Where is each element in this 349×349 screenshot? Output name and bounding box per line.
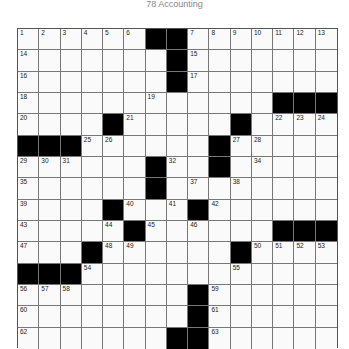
grid-cell[interactable]: 8 <box>209 29 230 50</box>
grid-cell[interactable] <box>103 285 124 306</box>
grid-cell[interactable]: 25 <box>82 136 103 157</box>
grid-cell[interactable] <box>209 242 230 263</box>
grid-cell[interactable] <box>61 178 82 199</box>
grid-cell[interactable] <box>294 72 315 93</box>
grid-cell[interactable] <box>273 200 294 221</box>
grid-cell[interactable] <box>252 114 273 135</box>
grid-cell[interactable] <box>61 328 82 349</box>
grid-cell[interactable]: 57 <box>39 285 60 306</box>
grid-cell[interactable] <box>146 306 167 327</box>
grid-cell[interactable] <box>39 306 60 327</box>
grid-cell[interactable] <box>231 221 252 242</box>
grid-cell[interactable] <box>124 178 145 199</box>
grid-cell[interactable] <box>103 72 124 93</box>
grid-cell[interactable]: 2 <box>39 29 60 50</box>
grid-cell[interactable] <box>39 221 60 242</box>
grid-cell[interactable] <box>294 328 315 349</box>
grid-cell[interactable] <box>252 328 273 349</box>
grid-cell[interactable] <box>167 264 188 285</box>
grid-cell[interactable] <box>294 200 315 221</box>
grid-cell[interactable]: 19 <box>146 93 167 114</box>
grid-cell[interactable] <box>124 328 145 349</box>
grid-cell[interactable] <box>39 242 60 263</box>
grid-cell[interactable]: 34 <box>252 157 273 178</box>
grid-cell[interactable]: 52 <box>294 242 315 263</box>
grid-cell[interactable] <box>146 242 167 263</box>
grid-cell[interactable] <box>294 50 315 71</box>
grid-cell[interactable]: 9 <box>231 29 252 50</box>
grid-cell[interactable]: 1 <box>18 29 39 50</box>
grid-cell[interactable] <box>273 136 294 157</box>
grid-cell[interactable]: 47 <box>18 242 39 263</box>
grid-cell[interactable]: 48 <box>103 242 124 263</box>
grid-cell[interactable] <box>231 157 252 178</box>
grid-cell[interactable]: 63 <box>209 328 230 349</box>
grid-cell[interactable]: 44 <box>103 221 124 242</box>
grid-cell[interactable] <box>252 178 273 199</box>
grid-cell[interactable] <box>146 136 167 157</box>
grid-cell[interactable] <box>316 264 337 285</box>
grid-cell[interactable] <box>146 50 167 71</box>
grid-cell[interactable]: 17 <box>188 72 209 93</box>
grid-cell[interactable] <box>273 178 294 199</box>
grid-cell[interactable]: 3 <box>61 29 82 50</box>
grid-cell[interactable]: 20 <box>18 114 39 135</box>
grid-cell[interactable] <box>124 50 145 71</box>
grid-cell[interactable] <box>39 200 60 221</box>
grid-cell[interactable] <box>146 200 167 221</box>
grid-cell[interactable] <box>316 285 337 306</box>
grid-cell[interactable] <box>316 157 337 178</box>
grid-cell[interactable]: 43 <box>18 221 39 242</box>
grid-cell[interactable]: 56 <box>18 285 39 306</box>
grid-cell[interactable]: 59 <box>209 285 230 306</box>
grid-cell[interactable]: 7 <box>188 29 209 50</box>
grid-cell[interactable]: 31 <box>61 157 82 178</box>
grid-cell[interactable]: 4 <box>82 29 103 50</box>
grid-cell[interactable] <box>146 285 167 306</box>
grid-cell[interactable] <box>209 72 230 93</box>
grid-cell[interactable] <box>316 50 337 71</box>
grid-cell[interactable] <box>294 285 315 306</box>
grid-cell[interactable] <box>82 178 103 199</box>
grid-cell[interactable] <box>209 264 230 285</box>
grid-cell[interactable] <box>316 328 337 349</box>
grid-cell[interactable]: 26 <box>103 136 124 157</box>
grid-cell[interactable] <box>124 264 145 285</box>
grid-cell[interactable]: 29 <box>18 157 39 178</box>
grid-cell[interactable] <box>252 285 273 306</box>
grid-cell[interactable] <box>188 114 209 135</box>
grid-cell[interactable] <box>82 114 103 135</box>
grid-cell[interactable]: 32 <box>167 157 188 178</box>
grid-cell[interactable]: 13 <box>316 29 337 50</box>
grid-cell[interactable]: 24 <box>316 114 337 135</box>
grid-cell[interactable] <box>209 93 230 114</box>
grid-cell[interactable] <box>124 136 145 157</box>
grid-cell[interactable] <box>82 50 103 71</box>
grid-cell[interactable]: 53 <box>316 242 337 263</box>
grid-cell[interactable] <box>294 157 315 178</box>
grid-cell[interactable] <box>209 221 230 242</box>
grid-cell[interactable] <box>167 242 188 263</box>
grid-cell[interactable] <box>231 285 252 306</box>
grid-cell[interactable]: 38 <box>231 178 252 199</box>
grid-cell[interactable]: 22 <box>273 114 294 135</box>
grid-cell[interactable] <box>188 157 209 178</box>
grid-cell[interactable] <box>167 136 188 157</box>
grid-cell[interactable]: 10 <box>252 29 273 50</box>
grid-cell[interactable] <box>103 306 124 327</box>
grid-cell[interactable] <box>252 221 273 242</box>
grid-cell[interactable] <box>252 93 273 114</box>
grid-cell[interactable]: 55 <box>231 264 252 285</box>
grid-cell[interactable]: 23 <box>294 114 315 135</box>
grid-cell[interactable] <box>167 93 188 114</box>
grid-cell[interactable]: 62 <box>18 328 39 349</box>
grid-cell[interactable] <box>316 200 337 221</box>
grid-cell[interactable]: 51 <box>273 242 294 263</box>
grid-cell[interactable] <box>273 328 294 349</box>
grid-cell[interactable]: 61 <box>209 306 230 327</box>
grid-cell[interactable] <box>273 72 294 93</box>
grid-cell[interactable] <box>188 93 209 114</box>
grid-cell[interactable]: 60 <box>18 306 39 327</box>
grid-cell[interactable] <box>146 328 167 349</box>
grid-cell[interactable]: 21 <box>124 114 145 135</box>
